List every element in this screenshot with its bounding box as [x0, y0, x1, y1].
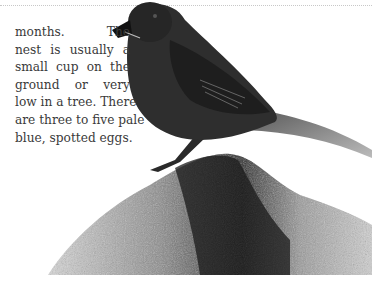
body-paragraph: months. The nest is usually a small cup … — [15, 24, 130, 147]
text-line: small cup on the — [15, 59, 130, 77]
bird-eye — [153, 14, 157, 18]
rock — [48, 154, 372, 275]
text-line: months. The — [15, 24, 130, 42]
text-line: low in a tree. There — [15, 94, 130, 112]
text-line: are three to five pale — [15, 112, 130, 130]
text-line: ground or very — [15, 77, 130, 95]
text-line: blue, spotted eggs. — [15, 130, 130, 148]
text-line: nest is usually a — [15, 42, 130, 60]
